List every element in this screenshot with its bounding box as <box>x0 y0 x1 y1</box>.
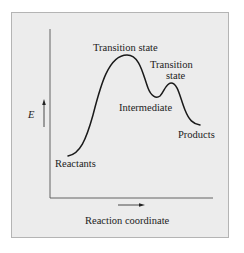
transition-state-1-label: Transition state <box>93 42 158 53</box>
transition-state-2-label-line2: state <box>166 70 186 81</box>
products-label: Products <box>178 129 215 140</box>
right-arrow-icon <box>118 203 145 206</box>
energy-diagram: E Reactants Transition state Transition … <box>0 0 244 253</box>
y-axis-label: E <box>27 109 35 120</box>
x-axis-label: Reaction coordinate <box>85 215 170 226</box>
up-arrow-icon <box>42 99 46 127</box>
reactants-label: Reactants <box>55 158 96 169</box>
intermediate-label: Intermediate <box>119 102 172 113</box>
transition-state-2-label-line1: Transition <box>150 59 194 70</box>
